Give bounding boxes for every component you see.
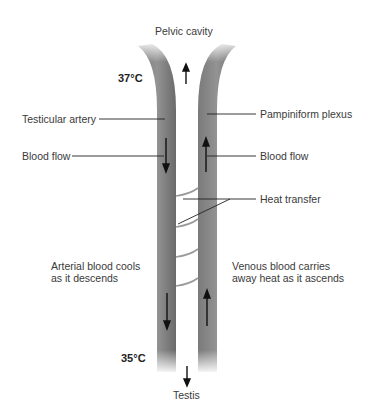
pampiniform-plexus xyxy=(198,44,236,372)
blood-flow-left-label: Blood flow xyxy=(22,150,70,162)
pampiniform-plexus-label: Pampiniform plexus xyxy=(260,108,352,120)
testicular-artery xyxy=(138,44,176,372)
arterial-note-line2: as it descends xyxy=(51,272,118,284)
heat-transfer-arcs xyxy=(176,188,198,286)
arterial-note-line1: Arterial blood cools xyxy=(51,260,140,272)
diagram-graphic xyxy=(0,0,373,414)
pelvic-cavity-label: Pelvic cavity xyxy=(155,25,213,37)
temperature-bottom: 35°C xyxy=(121,352,146,364)
blood-flow-right-label: Blood flow xyxy=(260,150,308,162)
venous-note-line1: Venous blood carries xyxy=(232,260,330,272)
heat-transfer-label: Heat transfer xyxy=(260,193,321,205)
temperature-top: 37°C xyxy=(118,72,143,84)
venous-note-line2: away heat as it ascends xyxy=(232,272,344,284)
testicular-artery-label: Testicular artery xyxy=(22,113,96,125)
testis-label: Testis xyxy=(173,389,200,401)
